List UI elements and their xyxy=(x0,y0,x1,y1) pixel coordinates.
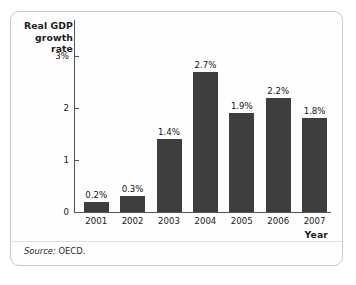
figure-container: Real GDP growth rate 0123% 0.2%0.3%1.4%2… xyxy=(0,0,356,285)
bar xyxy=(229,113,254,212)
x-tick-label: 2004 xyxy=(185,216,225,226)
bar-value-label: 1.9% xyxy=(220,101,264,111)
source-note: Source: OECD. xyxy=(24,246,85,256)
y-tick-mark xyxy=(74,56,79,57)
x-axis-line xyxy=(74,212,331,213)
chart-plot-area: Real GDP growth rate 0123% 0.2%0.3%1.4%2… xyxy=(0,0,356,285)
x-tick-label: 2007 xyxy=(295,216,335,226)
y-tick-label: 2 xyxy=(40,103,69,113)
y-tick-mark xyxy=(74,108,79,109)
x-tick-label: 2001 xyxy=(76,216,116,226)
y-axis-title: Real GDP growth rate xyxy=(16,20,73,55)
x-tick-label: 2003 xyxy=(149,216,189,226)
y-tick-mark xyxy=(74,160,79,161)
footnote-divider xyxy=(11,241,342,242)
x-tick-label: 2006 xyxy=(258,216,298,226)
y-tick-label: 3% xyxy=(40,51,69,61)
y-tick-mark xyxy=(74,212,79,213)
bar xyxy=(266,98,291,212)
x-axis-title: Year xyxy=(262,229,328,241)
bar-value-label: 2.2% xyxy=(256,86,300,96)
y-tick-label: 1 xyxy=(40,155,69,165)
bar xyxy=(193,72,218,212)
y-axis-line xyxy=(74,20,75,213)
bar-value-label: 1.4% xyxy=(147,127,191,137)
bar xyxy=(302,118,327,212)
bar xyxy=(120,196,145,212)
bar xyxy=(84,202,109,212)
source-value: OECD. xyxy=(58,246,85,256)
bar-value-label: 2.7% xyxy=(183,60,227,70)
bar-value-label: 1.8% xyxy=(293,106,337,116)
x-tick-label: 2005 xyxy=(222,216,262,226)
source-label: Source: xyxy=(24,246,56,256)
bar xyxy=(157,139,182,212)
y-tick-label: 0 xyxy=(40,207,69,217)
x-tick-label: 2002 xyxy=(113,216,153,226)
bar-value-label: 0.3% xyxy=(111,184,155,194)
